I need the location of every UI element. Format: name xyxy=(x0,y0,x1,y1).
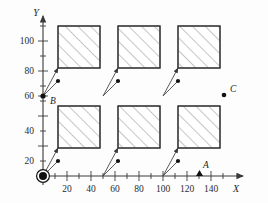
origin-core xyxy=(39,172,47,180)
leader-r1c3 xyxy=(163,148,180,176)
square-r2c1-hatch xyxy=(58,26,100,68)
x-tick-labels: 20 40 60 80 100 120 140 xyxy=(62,184,218,194)
y-tick-label-40: 40 xyxy=(25,126,35,136)
square-r2c3-hatch xyxy=(178,26,220,68)
x-tick-label-20: 20 xyxy=(62,184,72,194)
square-r1c1-hatch xyxy=(58,106,100,148)
point-a-label: A xyxy=(202,160,209,170)
square-group-top-row xyxy=(58,26,220,68)
x-tick-label-80: 80 xyxy=(134,184,144,194)
point-b-dot xyxy=(40,93,45,98)
scatter-plot: 20 40 60 80 100 120 140 20 40 60 80 100 … xyxy=(0,0,268,203)
point-c-label: C xyxy=(230,84,237,94)
leader-group-top-row xyxy=(43,68,180,96)
leader-r1c2 xyxy=(103,148,120,176)
leader-r2c2 xyxy=(103,68,120,96)
leader-r2c1 xyxy=(43,68,60,96)
square-r2c1 xyxy=(58,26,100,68)
x-tick-label-120: 120 xyxy=(180,184,195,194)
x-tick-label-40: 40 xyxy=(86,184,96,194)
y-tick-label-20: 20 xyxy=(25,156,35,166)
x-axis-label: X xyxy=(232,183,240,194)
y-axis-label: Y xyxy=(33,7,40,18)
square-group-bottom-row xyxy=(58,106,220,148)
point-b-label: B xyxy=(50,96,56,106)
y-tick-label-100: 100 xyxy=(20,36,35,46)
square-r2c3 xyxy=(178,26,220,68)
square-r2c2-hatch xyxy=(118,26,160,68)
origin-marker[interactable] xyxy=(37,170,50,183)
square-r1c1 xyxy=(58,106,100,148)
x-tick-label-100: 100 xyxy=(156,184,171,194)
square-r1c2-hatch xyxy=(118,106,160,148)
leader-group-bottom-row xyxy=(43,148,180,176)
y-tick-label-80: 80 xyxy=(25,66,35,76)
point-c-dot xyxy=(222,93,227,98)
x-tick-label-60: 60 xyxy=(110,184,120,194)
square-r2c2 xyxy=(118,26,160,68)
square-r1c3-hatch xyxy=(178,106,220,148)
square-r1c2 xyxy=(118,106,160,148)
point-c[interactable]: C xyxy=(222,84,237,97)
y-tick-label-60: 60 xyxy=(25,91,35,101)
point-a[interactable]: A xyxy=(196,160,209,176)
y-tick-labels: 20 40 60 80 100 xyxy=(20,36,35,166)
square-r1c3 xyxy=(178,106,220,148)
figure-canvas: 20 40 60 80 100 120 140 20 40 60 80 100 … xyxy=(0,0,268,203)
leader-r2c3 xyxy=(163,68,180,96)
x-tick-label-140: 140 xyxy=(204,184,219,194)
point-a-marker xyxy=(196,170,203,176)
